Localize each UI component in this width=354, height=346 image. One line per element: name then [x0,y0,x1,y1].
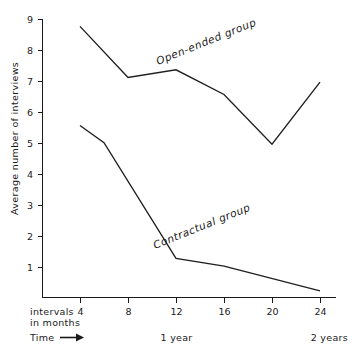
x-tick-label-24: 24 [314,306,326,317]
annotation-two-years: 2 years [311,332,348,343]
series-line-contractual [80,126,320,291]
chart-plot-area: 9 8 7 6 5 4 3 2 1 4 8 12 16 20 24 Averag… [0,0,354,346]
x-tick-label-16: 16 [218,306,230,317]
annotation-one-year: 1 year [160,332,192,343]
arrow-right-icon [60,334,84,342]
y-tick-label-9: 9 [27,14,33,25]
y-tick-label-7: 7 [27,76,33,87]
y-axis-title: Average number of interviews [9,62,20,215]
y-tick-label-1: 1 [27,262,33,273]
y-tick-label-4: 4 [27,169,33,180]
interval-note-line-1: intervals [30,306,74,317]
y-tick-label-2: 2 [27,231,33,242]
series-label-contractual: Contractual group [151,201,252,251]
x-tick-label-12: 12 [170,306,182,317]
x-tick-label-8: 8 [125,306,131,317]
y-tick-label-5: 5 [27,138,33,149]
x-axis-title: Time [29,332,54,343]
x-tick-label-4: 4 [77,306,83,317]
y-tick-label-3: 3 [27,200,33,211]
interval-note-line-2: in months [30,317,80,328]
x-tick-label-20: 20 [266,306,278,317]
y-tick-label-6: 6 [27,107,33,118]
y-tick-label-8: 8 [27,45,33,56]
line-chart-figure: 9 8 7 6 5 4 3 2 1 4 8 12 16 20 24 Averag… [0,0,354,346]
x-axis-ticks [81,298,321,304]
series-label-open-ended: Open-ended group [154,16,258,67]
y-axis-ticks [38,20,43,268]
